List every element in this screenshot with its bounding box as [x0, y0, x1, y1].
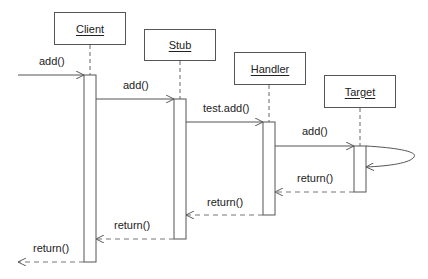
object-handler: Handler — [234, 52, 306, 85]
object-client: Client — [54, 12, 126, 45]
stub-activation — [174, 99, 186, 239]
return-label-client: return() — [33, 242, 69, 254]
object-stub: Stub — [144, 29, 216, 61]
object-handler-label: Handler — [251, 63, 290, 75]
msg-target-self-call — [366, 146, 415, 167]
return-label-target: return() — [297, 172, 333, 184]
object-target: Target — [324, 75, 396, 108]
return-label-handler: return() — [207, 196, 243, 208]
object-stub-label: Stub — [169, 39, 192, 51]
msg-label-stub-add: add() — [123, 79, 149, 91]
object-target-label: Target — [345, 86, 376, 98]
msg-label-handler-test-add: test.add() — [203, 102, 249, 114]
msg-label-target-add: add() — [302, 125, 328, 137]
msg-label-external-add: add() — [39, 55, 65, 67]
object-client-label: Client — [76, 23, 104, 35]
client-activation — [84, 75, 96, 262]
sequence-diagram: Client Stub Handler Target add() add() t… — [0, 0, 428, 279]
target-activation — [354, 146, 366, 192]
handler-activation — [263, 122, 275, 215]
return-label-stub: return() — [114, 219, 150, 231]
